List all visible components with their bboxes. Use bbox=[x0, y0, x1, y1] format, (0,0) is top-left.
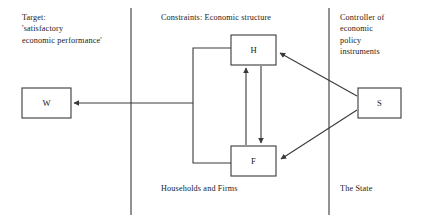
panel-heading-constraints: Constraints: Economic structure bbox=[161, 12, 271, 23]
panel-heading-target: Target: 'satisfactory economic performan… bbox=[22, 12, 102, 46]
node-label-s: S bbox=[358, 88, 401, 118]
panel-heading-state: Controller of economic policy instrument… bbox=[340, 12, 384, 58]
edge-s-to-h bbox=[280, 53, 357, 96]
node-label-w: W bbox=[22, 88, 71, 118]
edge-s-to-f bbox=[281, 110, 357, 159]
panel-footer-state: The State bbox=[340, 183, 373, 194]
edge-bracket-hf bbox=[193, 48, 231, 163]
node-label-f: F bbox=[231, 146, 276, 176]
diagram-canvas: Target: 'satisfactory economic performan… bbox=[0, 0, 425, 223]
node-label-h: H bbox=[231, 35, 276, 65]
panel-footer-constraints: Households and Firms bbox=[161, 183, 238, 194]
